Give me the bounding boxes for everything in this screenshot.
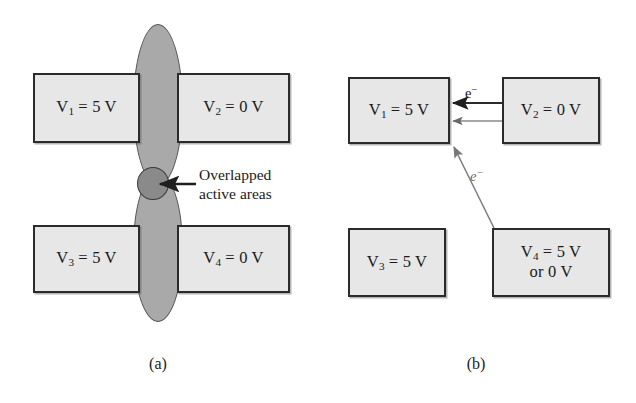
electrode-v4-panel-b-label-line2: or 0 V <box>529 263 572 281</box>
overlapped-active-areas-annotation: Overlapped active areas <box>199 166 272 204</box>
annotation-line-2: active areas <box>199 185 272 204</box>
electrode-v1-panel-a: V1 = 5 V <box>33 73 140 143</box>
electron-label-horizontal: e− <box>465 84 477 102</box>
electrode-v3-panel-a: V3 = 5 V <box>33 225 140 293</box>
electrode-v4-panel-b-label-line1: V4 = 5 V <box>521 243 581 263</box>
annotation-line-1: Overlapped <box>199 166 272 185</box>
electrode-v3-panel-b-label: V3 = 5 V <box>367 253 427 273</box>
panel-b: V1 = 5 V V2 = 0 V V3 = 5 V V4 = 5 V or 0… <box>318 0 636 403</box>
panel-a: V1 = 5 V V2 = 0 V V3 = 5 V V4 = 0 V Over… <box>0 0 318 403</box>
electrode-v2-panel-b-label: V2 = 0 V <box>521 101 581 121</box>
electrode-v2-panel-a: V2 = 0 V <box>177 73 290 143</box>
overlapped-active-area-blob <box>137 167 169 200</box>
electron-label-horizontal-charge: − <box>471 84 477 95</box>
panel-a-caption: (a) <box>128 355 188 373</box>
electrode-v4-panel-a: V4 = 0 V <box>177 225 290 293</box>
electrode-v3-panel-b: V3 = 5 V <box>348 228 446 297</box>
electrode-v4-panel-a-label: V4 = 0 V <box>203 249 263 269</box>
electrode-v2-panel-b: V2 = 0 V <box>502 77 600 144</box>
electron-label-diagonal: e− <box>470 167 483 185</box>
electrode-v2-panel-a-label: V2 = 0 V <box>203 98 263 118</box>
electrode-v3-panel-a-label: V3 = 5 V <box>56 249 116 269</box>
figure-container: V1 = 5 V V2 = 0 V V3 = 5 V V4 = 0 V Over… <box>0 0 636 403</box>
electrode-v1-panel-b: V1 = 5 V <box>348 77 450 144</box>
electrode-v4-panel-b: V4 = 5 V or 0 V <box>492 228 610 297</box>
electrode-v1-panel-b-label: V1 = 5 V <box>369 101 429 121</box>
electron-label-diagonal-charge: − <box>476 167 483 178</box>
electrode-v1-panel-a-label: V1 = 5 V <box>56 98 116 118</box>
active-strip-ellipse-top <box>133 24 183 186</box>
panel-b-caption: (b) <box>446 355 506 373</box>
